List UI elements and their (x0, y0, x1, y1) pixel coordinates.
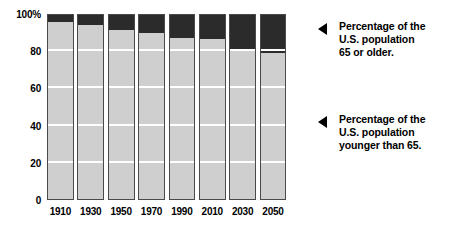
gridline (170, 124, 195, 126)
gridline (139, 124, 164, 126)
bar-segment-older (139, 15, 164, 33)
bar-1910 (47, 14, 74, 200)
x-tick-label: 1970 (141, 206, 162, 217)
bar-1970 (138, 14, 165, 200)
y-tick-label: 40 (30, 120, 41, 131)
bar-segment-older (109, 15, 134, 30)
bar-1990 (169, 14, 196, 200)
gridline (48, 49, 73, 51)
x-tick-label: 1910 (50, 206, 71, 217)
x-axis: 19101930195019701990201020302050 (47, 206, 290, 228)
gridline (78, 86, 103, 88)
bar-2050 (260, 14, 287, 200)
bar-1930 (77, 14, 104, 200)
bar-segment-older (261, 15, 286, 53)
y-tick-label: 20 (30, 157, 41, 168)
bar-segment-older (78, 15, 103, 25)
y-tick-label: 80 (30, 46, 41, 57)
gridline (200, 124, 225, 126)
bar-segment-older (200, 15, 225, 39)
x-tick-label: 2010 (202, 206, 223, 217)
bar-2010 (199, 14, 226, 200)
gridline (261, 161, 286, 163)
gridline (139, 86, 164, 88)
gridline (200, 161, 225, 163)
y-tick-label: 0 (36, 195, 41, 206)
gridline (261, 86, 286, 88)
annotation-younger-label: Percentage of the U.S. population younge… (339, 113, 425, 152)
gridline (261, 49, 286, 51)
gridline (230, 161, 255, 163)
gridline (230, 86, 255, 88)
x-tick-label: 1950 (110, 206, 131, 217)
gridline (78, 124, 103, 126)
gridline (230, 124, 255, 126)
gridline (78, 161, 103, 163)
gridline (200, 86, 225, 88)
bar-segment-older (170, 15, 195, 38)
y-tick-label: 60 (30, 83, 41, 94)
gridline (48, 86, 73, 88)
annotation-younger: Percentage of the U.S. population younge… (318, 113, 425, 152)
gridline (48, 161, 73, 163)
left-arrow-icon (318, 23, 327, 35)
y-axis: 020406080100% (0, 0, 44, 233)
y-tick-label: 100% (16, 9, 41, 20)
gridline (109, 124, 134, 126)
gridline (170, 161, 195, 163)
annotation-older: Percentage of the U.S. population 65 or … (318, 20, 425, 59)
stacked-bar-chart: 020406080100% 19101930195019701990201020… (0, 0, 452, 233)
gridline (170, 49, 195, 51)
left-arrow-icon (318, 116, 327, 128)
gridline (109, 86, 134, 88)
gridline (170, 86, 195, 88)
x-tick-label: 1930 (80, 206, 101, 217)
bar-segment-older (48, 15, 73, 22)
gridline (139, 49, 164, 51)
gridline (109, 49, 134, 51)
bar-1950 (108, 14, 135, 200)
bar-segment-older (230, 15, 255, 49)
gridline (48, 124, 73, 126)
gridline (261, 124, 286, 126)
gridline (200, 49, 225, 51)
x-tick-label: 2050 (262, 206, 283, 217)
bar-2030 (229, 14, 256, 200)
x-tick-label: 1990 (171, 206, 192, 217)
gridline (78, 49, 103, 51)
x-tick-label: 2030 (232, 206, 253, 217)
gridline (139, 161, 164, 163)
gridline (109, 161, 134, 163)
plot-area (47, 14, 290, 200)
gridline (230, 49, 255, 51)
annotation-older-label: Percentage of the U.S. population 65 or … (339, 20, 425, 59)
